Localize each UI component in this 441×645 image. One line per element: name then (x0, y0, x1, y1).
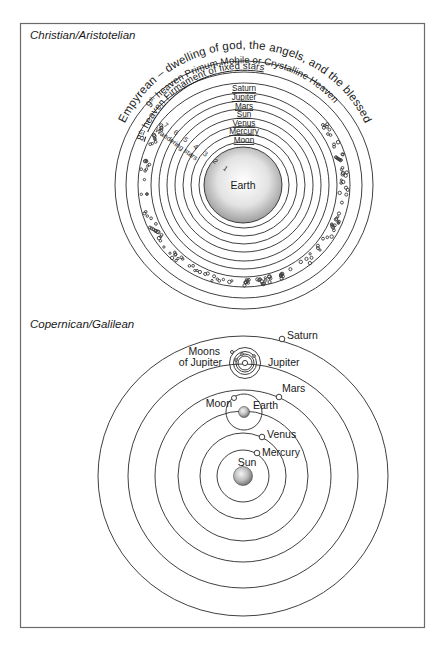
fixed-star-icon (335, 218, 338, 221)
fixed-star-icon (222, 278, 224, 280)
fixed-star-icon (330, 235, 333, 238)
fixed-star-icon (333, 229, 336, 232)
sphere-labels: Saturn Jupiter Mars Sun Venus Mercury Mo… (229, 84, 259, 145)
panel-title-bottom: Copernican/Galilean (30, 318, 134, 330)
cosmology-comparison-figure: Christian/Aristotelian Earth Saturn Jupi… (0, 0, 441, 645)
sun-ball (234, 467, 253, 486)
fixed-star-icon (148, 163, 151, 166)
saturn-planet (279, 336, 285, 342)
fixed-star-icon (228, 280, 232, 284)
fixed-star-icon (265, 279, 268, 282)
sphere-label-moon: Moon (234, 136, 255, 145)
fixed-star-icon (340, 182, 343, 185)
fixed-star-icon (155, 223, 158, 226)
sphere-label-jupiter: Jupiter (232, 93, 257, 102)
jupiter-planet (242, 360, 247, 365)
fixed-star-icon (146, 193, 149, 196)
fixed-star-icon (338, 191, 341, 194)
fixed-star-icon (327, 133, 330, 136)
jupiter-moon-4 (253, 355, 256, 358)
fixed-star-icon (333, 145, 336, 148)
fixed-star-icon (213, 275, 216, 278)
venus-planet (259, 434, 265, 440)
fixed-star-icon (328, 128, 331, 131)
jupiter-moon-3 (241, 353, 244, 356)
venus-label: Venus (267, 428, 296, 440)
fixed-star-icon (140, 193, 142, 195)
fixed-star-icon (342, 153, 345, 156)
fixed-star-icon (188, 265, 191, 268)
saturn-label: Saturn (287, 329, 318, 341)
fixed-star-icon (145, 211, 148, 214)
fixed-star-icon (169, 252, 171, 254)
fixed-star-icon (143, 178, 145, 180)
mars-label: Mars (282, 382, 305, 394)
earth-label-bottom: Earth (253, 399, 278, 411)
copernican-galilean-panel: Copernican/Galilean Sun Mercury Venus Mo… (30, 318, 388, 616)
fixed-star-icon (289, 268, 292, 271)
fixed-star-icon (192, 264, 195, 267)
christian-aristotelian-panel: Christian/Aristotelian Earth Saturn Jupi… (30, 29, 374, 309)
fixed-star-icon (305, 257, 308, 260)
fixed-star-icon (198, 270, 201, 273)
panel-title-top: Christian/Aristotelian (30, 29, 135, 41)
fixed-star-icon (322, 237, 325, 240)
fixed-star-icon (329, 134, 332, 137)
fixed-star-icon (170, 256, 173, 259)
fixed-star-icon (337, 212, 340, 215)
fixed-star-icon (268, 280, 271, 283)
earth-ball (239, 407, 250, 418)
fixed-star-icon (310, 256, 313, 259)
moon-label: Moon (206, 397, 232, 409)
jupiter-moon-1 (231, 351, 234, 354)
fixed-star-icon (340, 168, 342, 170)
mercury-planet (254, 450, 260, 456)
fixed-star-icon (244, 281, 247, 284)
moon-body (232, 396, 237, 401)
fixed-star-icon (151, 142, 153, 144)
fixed-star-icon (154, 229, 157, 232)
sphere-label-sun: Sun (237, 110, 252, 119)
fixed-star-icon (211, 279, 213, 281)
moons-of-jupiter-label-line2: of Jupiter (179, 356, 223, 368)
jupiter-moon-2 (235, 359, 238, 362)
fixed-star-icon (150, 217, 153, 220)
fixed-star-icon (181, 258, 184, 261)
fixed-star-icon (145, 168, 148, 171)
mercury-label: Mercury (262, 446, 301, 458)
fixed-star-icon (346, 188, 349, 191)
fixed-star-icon (336, 140, 340, 144)
fixed-star-icon (163, 246, 165, 248)
fixed-star-icon (299, 260, 302, 263)
sphere-label-mercury: Mercury (229, 127, 259, 136)
fixed-star-icon (218, 279, 221, 282)
mars-planet (276, 394, 282, 400)
fixed-star-icon (146, 215, 148, 217)
earth-label-top: Earth (230, 179, 255, 191)
fixed-star-icon (148, 226, 151, 229)
fixed-star-icon (326, 236, 329, 239)
fixed-star-icon (194, 269, 196, 271)
fixed-star-icon (308, 261, 311, 264)
sphere-label-saturn: Saturn (232, 84, 257, 93)
fixed-star-icon (340, 201, 343, 204)
sun-label: Sun (238, 456, 257, 468)
fixed-star-icon (177, 257, 179, 259)
fixed-star-icon (140, 168, 143, 171)
fixed-star-icon (345, 193, 348, 196)
fixed-star-icon (319, 249, 321, 251)
fixed-star-icon (309, 253, 311, 255)
jupiter-label: Jupiter (268, 356, 300, 368)
